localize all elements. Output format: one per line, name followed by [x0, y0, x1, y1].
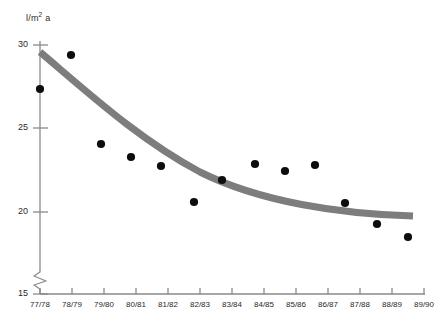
data-point [311, 161, 319, 169]
data-point [404, 233, 412, 241]
x-tick-label-87-88: 87/88 [343, 300, 377, 309]
data-point [218, 176, 226, 184]
data-point [127, 153, 135, 161]
data-point [373, 220, 381, 228]
data-point [190, 198, 198, 206]
data-point [67, 51, 75, 59]
x-tick-label-86-87: 86/87 [311, 300, 345, 309]
chart-container: l/m2 a [0, 0, 436, 326]
x-tick-label-79-80: 79/80 [87, 300, 121, 309]
x-tick-label-83-84: 83/84 [215, 300, 249, 309]
x-tick-label-88-89: 88/89 [375, 300, 409, 309]
y-tick-label-30: 30 [6, 39, 28, 49]
data-point [157, 162, 165, 170]
y-tick-label-20: 20 [6, 206, 28, 216]
data-point [97, 140, 105, 148]
y-tick-label-15: 15 [6, 288, 28, 298]
data-point [36, 85, 44, 93]
x-tick-label-81-82: 81/82 [151, 300, 185, 309]
x-tick-label-78-79: 78/79 [55, 300, 89, 309]
x-tick-label-77-78: 77/78 [23, 300, 57, 309]
data-point [251, 160, 259, 168]
x-tick-label-89-90: 89/90 [407, 300, 436, 309]
x-axis-ticks [40, 288, 424, 294]
data-point [341, 199, 349, 207]
x-tick-label-82-83: 82/83 [183, 300, 217, 309]
data-point [281, 167, 289, 175]
x-tick-label-84-85: 84/85 [247, 300, 281, 309]
x-tick-label-85-86: 85/86 [279, 300, 313, 309]
x-tick-label-80-81: 80/81 [119, 300, 153, 309]
y-axis-break-icon [34, 272, 46, 289]
y-tick-label-25: 25 [6, 122, 28, 132]
plot-area [0, 0, 436, 326]
trend-curve [40, 52, 413, 216]
